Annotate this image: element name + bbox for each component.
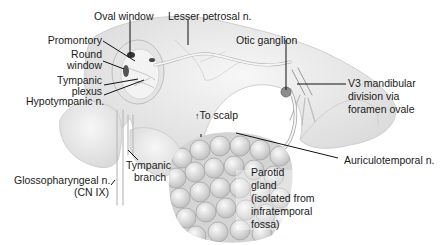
label-glossopharyngeal-1: Glossopharyngeal n. <box>14 175 110 186</box>
middle-ear-cavity <box>112 40 164 104</box>
label-round-window-2: window <box>30 60 102 71</box>
label-promontory: Promontory <box>30 35 102 46</box>
label-lesser-petrosal: Lesser petrosal n. <box>168 11 251 22</box>
label-v3-1: V3 mandibular <box>348 78 416 89</box>
anatomy-diagram: Oval window Lesser petrosal n. Promontor… <box>0 0 445 245</box>
label-oval-window: Oval window <box>94 11 154 22</box>
label-glossopharyngeal-2: (CN IX) <box>74 187 109 198</box>
label-hypotympanic: Hypotympanic n. <box>26 96 104 107</box>
round-window-mark <box>123 65 129 77</box>
label-v3-2: division via <box>348 91 399 102</box>
label-parotid-3: (isolated from <box>251 193 315 204</box>
label-parotid-5: fossa) <box>251 219 280 230</box>
label-parotid-1: Parotid <box>251 167 284 178</box>
label-otic-ganglion: Otic ganglion <box>236 35 297 46</box>
label-tympanic-branch-2: branch <box>134 172 166 183</box>
label-auriculotemporal: Auriculotemporal n. <box>344 155 434 166</box>
label-v3-3: foramen ovale <box>348 104 415 115</box>
label-tympanic-branch-1: Tympanic <box>126 160 171 171</box>
label-parotid-2: gland <box>251 180 277 191</box>
label-parotid-4: infratemporal <box>251 206 312 217</box>
label-to-scalp: ↑To scalp <box>195 110 238 122</box>
